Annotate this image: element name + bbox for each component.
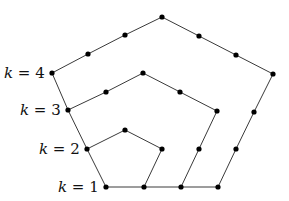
edge-middle-k3 bbox=[68, 73, 217, 187]
edges bbox=[52, 17, 273, 187]
vertex-dot bbox=[84, 146, 89, 151]
vertex-dot bbox=[196, 146, 201, 151]
label-k3: k = 3 bbox=[20, 101, 61, 119]
vertex-dot bbox=[141, 184, 146, 189]
level-labels: k = 4 k = 3 k = 2 k = 1 bbox=[4, 64, 99, 196]
vertex-dot bbox=[178, 184, 183, 189]
vertex-dot bbox=[177, 89, 182, 94]
vertex-dot bbox=[85, 51, 90, 56]
edge-left-spine bbox=[52, 73, 106, 187]
label-value: 3 bbox=[51, 101, 61, 119]
label-k1: k = 1 bbox=[58, 178, 99, 196]
vertex-dot bbox=[233, 52, 238, 57]
label-value: 2 bbox=[70, 140, 80, 158]
pentagon-lattice-diagram: k = 4 k = 3 k = 2 k = 1 bbox=[0, 0, 289, 201]
label-value: 4 bbox=[35, 64, 45, 82]
vertex-dot bbox=[159, 146, 164, 151]
vertex-dot bbox=[251, 109, 256, 114]
vertex-dot bbox=[196, 33, 201, 38]
vertex-dot bbox=[159, 14, 164, 19]
label-var: k bbox=[58, 178, 67, 196]
vertex-dot bbox=[103, 89, 108, 94]
label-value: 1 bbox=[89, 178, 99, 196]
vertex-dot bbox=[140, 70, 145, 75]
label-k4: k = 4 bbox=[4, 64, 45, 82]
nodes bbox=[49, 14, 275, 189]
label-var: k bbox=[39, 140, 48, 158]
vertex-dot bbox=[270, 71, 275, 76]
vertex-dot bbox=[122, 127, 127, 132]
vertex-dot bbox=[49, 70, 54, 75]
label-var: k bbox=[20, 101, 29, 119]
label-eq: = bbox=[29, 101, 51, 119]
label-eq: = bbox=[48, 140, 70, 158]
vertex-dot bbox=[233, 146, 238, 151]
label-eq: = bbox=[67, 178, 89, 196]
vertex-dot bbox=[65, 107, 70, 112]
label-var: k bbox=[4, 64, 13, 82]
vertex-dot bbox=[122, 32, 127, 37]
label-eq: = bbox=[13, 64, 35, 82]
label-k2: k = 2 bbox=[39, 140, 80, 158]
vertex-dot bbox=[214, 108, 219, 113]
vertex-dot bbox=[103, 184, 108, 189]
vertex-dot bbox=[215, 184, 220, 189]
